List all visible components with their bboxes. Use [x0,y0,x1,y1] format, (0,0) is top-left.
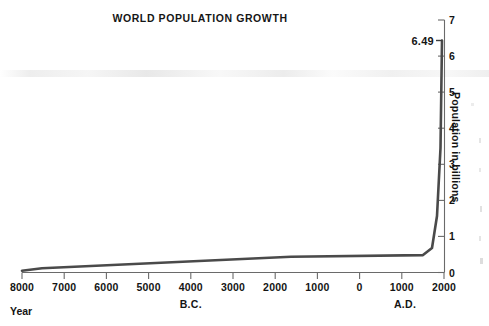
chart-figure: WORLD POPULATION GROWTH [0,0,489,326]
x-tick-label-7000bc: 7000 [52,281,76,293]
x-tick-label-6000bc: 6000 [94,281,118,293]
era-label-bc: B.C. [180,298,202,310]
y-tick-label-0: 0 [449,267,455,279]
plot-area: 8000 7000 6000 5000 4000 3000 2000 1000 … [0,0,489,326]
x-tick-label-1000bc: 1000 [305,281,329,293]
x-tick-label-2000bc: 2000 [263,281,287,293]
x-tick-label-2000ad: 2000 [432,281,456,293]
annotation-6-49: 6.49 [411,35,434,47]
y-axis-title: Population in billions [450,92,462,203]
x-tick-label-0: 0 [357,281,363,293]
y-tick-label-6: 6 [449,50,455,62]
x-tick-label-4000bc: 4000 [179,281,203,293]
x-tick-label-5000bc: 5000 [137,281,161,293]
y-tick-label-7: 7 [449,14,455,26]
x-tick-label-1000ad: 1000 [390,281,414,293]
y-tick-label-1: 1 [449,230,455,242]
population-line [22,41,442,271]
era-label-ad: A.D. [394,298,416,310]
x-axis-caption: Year [10,305,32,317]
x-axis-ticks [22,273,444,280]
x-tick-label-8000bc: 8000 [10,281,34,293]
x-tick-label-3000bc: 3000 [221,281,245,293]
plot-svg [0,0,489,326]
